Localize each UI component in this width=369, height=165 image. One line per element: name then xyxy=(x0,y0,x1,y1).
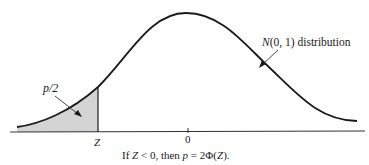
caption-eq: = 2Φ( xyxy=(188,149,217,162)
z-tick-label: Z xyxy=(94,136,101,148)
curve-label-arrowhead-icon xyxy=(259,60,266,68)
curve-label: N(0, 1) distribution xyxy=(261,36,351,49)
caption-if: If xyxy=(122,149,132,161)
zero-tick-label: 0 xyxy=(185,133,191,145)
caption-lt0: < 0, then xyxy=(138,149,182,161)
caption-end: ). xyxy=(223,149,230,162)
normal-distribution-diagram: p/2 N(0, 1) distribution Z 0 If Z < 0, t… xyxy=(0,0,369,165)
shaded-area-label: p/2 xyxy=(42,81,58,95)
curve-label-rest: (0, 1) distribution xyxy=(270,36,351,49)
caption: If Z < 0, then p = 2Φ(Z). xyxy=(122,149,230,162)
